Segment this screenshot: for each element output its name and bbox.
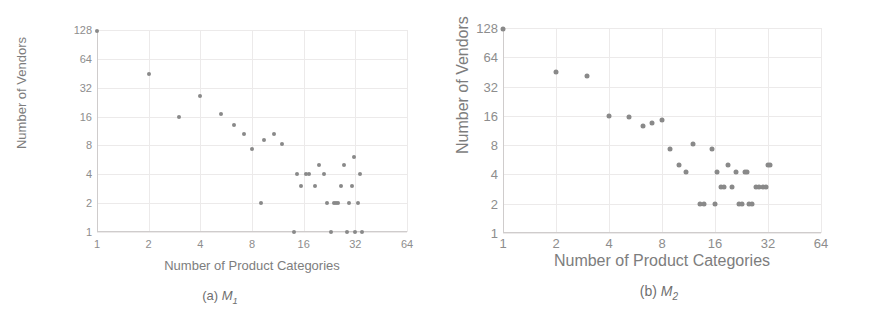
data-point	[259, 201, 263, 205]
data-point	[272, 132, 276, 136]
y-tick-label: 32	[58, 82, 92, 94]
data-point	[729, 184, 734, 189]
grid-line-vertical	[556, 28, 557, 233]
x-tick-label: 1	[499, 236, 506, 251]
y-axis-line	[97, 30, 98, 232]
x-tick-label: 8	[658, 236, 665, 251]
grid-line-vertical	[768, 28, 769, 233]
data-point	[295, 172, 299, 176]
panel-b: Number of Vendors 1248163264128 12481632…	[440, 0, 878, 320]
panel-caption-a: (a) M1	[0, 288, 440, 306]
grid-line-vertical	[252, 30, 253, 232]
caption-subscript: 2	[673, 291, 679, 302]
data-point	[356, 201, 360, 205]
data-point	[740, 201, 745, 206]
data-point	[317, 163, 321, 167]
data-point	[691, 141, 696, 146]
data-point	[714, 170, 719, 175]
data-point	[347, 201, 351, 205]
data-point	[640, 124, 645, 129]
grid-line-vertical	[662, 28, 663, 233]
grid-line-vertical	[609, 28, 610, 233]
data-point	[322, 172, 326, 176]
x-tick-label: 4	[605, 236, 612, 251]
y-tick-label: 16	[58, 111, 92, 123]
caption-prefix: (a)	[202, 288, 222, 303]
y-tick-label: 8	[58, 139, 92, 151]
grid-line-horizontal	[503, 233, 821, 234]
panel-a: Number of Vendors 1248163264128 12481632…	[0, 0, 440, 320]
y-axis-line	[503, 28, 504, 233]
caption-subscript: 1	[233, 296, 238, 306]
data-point	[726, 163, 731, 168]
y-tick-label: 1	[458, 226, 498, 241]
data-point	[342, 163, 346, 167]
data-point	[607, 113, 612, 118]
data-point	[585, 74, 590, 79]
data-point	[336, 201, 340, 205]
y-tick-label: 2	[458, 196, 498, 211]
data-point	[353, 230, 357, 234]
data-point	[177, 115, 181, 119]
y-tick-label: 64	[58, 53, 92, 65]
x-tick-label: 2	[552, 236, 559, 251]
x-tick-label: 32	[761, 236, 775, 251]
y-tick-label: 8	[458, 138, 498, 153]
data-point	[352, 155, 356, 159]
x-tick-label: 8	[249, 238, 255, 250]
data-point	[350, 184, 354, 188]
grid-line-vertical	[821, 28, 822, 233]
figure-two-scatter-panels: Number of Vendors 1248163264128 12481632…	[0, 0, 878, 320]
plot-area-b	[503, 28, 821, 233]
grid-line-vertical	[304, 30, 305, 232]
y-tick-label: 16	[458, 108, 498, 123]
y-tick-label: 64	[458, 50, 498, 65]
data-point	[329, 230, 333, 234]
y-tick-label: 1	[58, 226, 92, 238]
data-point	[360, 230, 364, 234]
data-point	[627, 115, 632, 120]
y-tick-label: 32	[458, 79, 498, 94]
y-tick-label: 4	[458, 167, 498, 182]
data-point	[299, 184, 303, 188]
y-tick-label: 128	[458, 21, 498, 36]
data-point	[280, 142, 284, 146]
data-point	[345, 230, 349, 234]
x-tick-label: 64	[814, 236, 828, 251]
data-point	[750, 201, 755, 206]
y-axis-title: Number of Vendors	[14, 33, 30, 153]
caption-symbol: M	[661, 283, 673, 299]
grid-line-vertical	[407, 30, 408, 232]
data-point	[339, 184, 343, 188]
data-point	[763, 184, 768, 189]
data-point	[307, 172, 311, 176]
data-point	[677, 163, 682, 168]
data-point	[325, 201, 329, 205]
plot-area-a	[97, 30, 407, 232]
data-point	[147, 72, 151, 76]
data-point	[219, 112, 223, 116]
grid-line-vertical	[200, 30, 201, 232]
x-tick-label: 4	[197, 238, 203, 250]
data-point	[702, 201, 707, 206]
x-tick-label: 2	[146, 238, 152, 250]
data-point	[733, 170, 738, 175]
x-tick-label: 16	[708, 236, 722, 251]
data-point	[501, 27, 506, 32]
data-point	[95, 29, 99, 33]
data-point	[232, 123, 236, 127]
x-tick-label: 16	[298, 238, 310, 250]
caption-symbol: M	[222, 288, 233, 303]
x-axis-line	[503, 232, 821, 233]
data-point	[668, 147, 673, 152]
data-point	[683, 170, 688, 175]
data-point	[722, 184, 727, 189]
data-point	[250, 147, 254, 151]
x-axis-title: Number of Product Categories	[503, 252, 821, 270]
panel-caption-b: (b) M2	[440, 283, 878, 302]
x-tick-label: 32	[349, 238, 361, 250]
data-point	[660, 118, 665, 123]
data-point	[710, 147, 715, 152]
data-point	[554, 70, 559, 75]
data-point	[242, 132, 246, 136]
